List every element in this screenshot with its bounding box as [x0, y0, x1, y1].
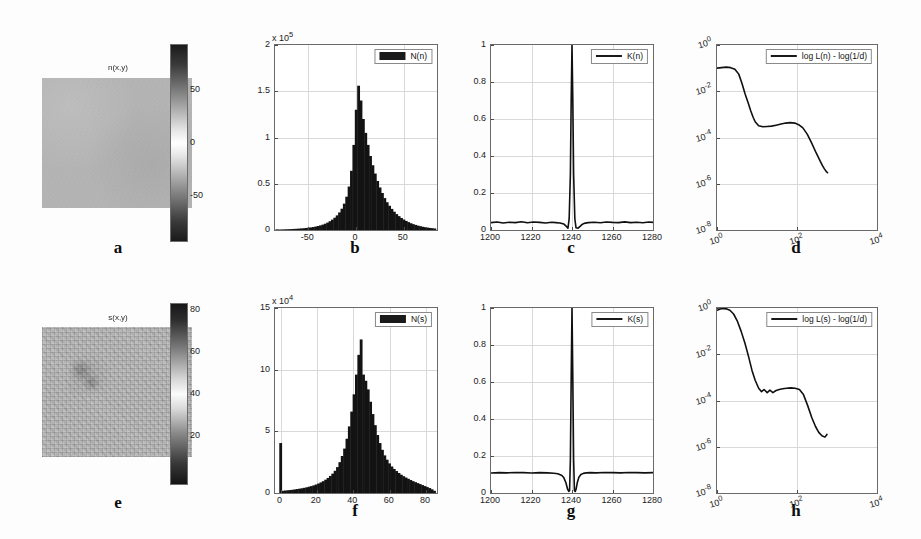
panel-d: d 10010-210-410-610-8100102104log L(n) -… [668, 30, 908, 270]
legend-label: K(s) [627, 315, 643, 324]
xtick-mark-2 [877, 227, 878, 230]
ytick-mark-3 [717, 447, 720, 448]
panel-c-ytick-2: 0.4 [458, 150, 486, 160]
series-line [717, 309, 827, 438]
ytick-exp: -4 [703, 126, 712, 136]
ytick-mark-1 [717, 354, 720, 355]
panel-f-y-exponent: x 104 [272, 293, 293, 306]
panel-b-ytick-1: 0.5 [242, 178, 270, 188]
xtick-mark-0 [491, 227, 492, 230]
panel-h-legend: log L(s) - log(1/d) [766, 312, 872, 327]
ytick-mark-0 [275, 230, 278, 231]
panel-f-plot [274, 307, 438, 494]
panel-f-xtick-2: 40 [347, 495, 357, 505]
panel-c-ytick-5: 1 [458, 39, 486, 49]
ytick-mark-2 [491, 156, 494, 157]
panel-e: s(x,y) 80 60 40 20 e [20, 295, 230, 535]
ytick-mark-5 [491, 308, 494, 309]
panel-g-xtick-3: 1260 [601, 495, 621, 505]
ytick-mark-1 [491, 193, 494, 194]
panel-c-xtick-4: 1280 [642, 232, 662, 242]
panel-d-xtick-2: 104 [867, 230, 884, 246]
panel-f-xtick-1: 20 [311, 495, 321, 505]
panel-e-colorbar-tick-3: 20 [190, 430, 200, 440]
panel-b-ytick-0: 0 [242, 224, 270, 234]
panel-g-ytick-3: 0.6 [458, 376, 486, 386]
panel-h-xtick-1: 102 [787, 493, 804, 509]
panel-a-colorbar [170, 44, 188, 242]
ytick-mark-0 [717, 45, 720, 46]
series-line [717, 67, 828, 173]
ytick-mark-3 [491, 382, 494, 383]
panel-c-ytick-4: 0.8 [458, 76, 486, 86]
panel-h-xtick-0: 100 [707, 493, 724, 509]
panel-f-xtick-3: 60 [384, 495, 394, 505]
panel-d-plot [716, 44, 878, 231]
panel-g-ytick-2: 0.4 [458, 413, 486, 423]
xtick-mark-1 [317, 490, 318, 493]
xtick-mark-4 [653, 227, 654, 230]
ytick-mark-2 [717, 401, 720, 402]
ytick-exp: -8 [703, 482, 712, 492]
panel-c-xtick-1: 1220 [520, 232, 540, 242]
panel-c-plot [490, 44, 654, 231]
legend-swatch-line [771, 55, 797, 57]
xtick-mark-3 [390, 490, 391, 493]
panel-a-colorbar-tick-1: 0 [190, 137, 195, 147]
ytick-mark-2 [275, 370, 278, 371]
ytick-mark-4 [491, 345, 494, 346]
panel-e-colorbar-tick-1: 60 [190, 346, 200, 356]
panel-b-y-exponent: x 105 [272, 30, 293, 43]
panel-h-xtick-2: 104 [867, 493, 884, 509]
figure-root: n(x,y) 50 0 -50 a x 105 b 00.511.52-5005… [0, 0, 921, 539]
xtick-mark-0 [717, 490, 718, 493]
ytick-exp: -2 [703, 343, 712, 353]
ytick-mark-1 [717, 91, 720, 92]
xtick-mark-2 [404, 227, 405, 230]
panel-g-series [491, 308, 653, 493]
legend-label: log L(s) - log(1/d) [802, 315, 867, 324]
ytick-mark-3 [491, 119, 494, 120]
xtick-mark-0 [281, 490, 282, 493]
xtick-mark-3 [613, 490, 614, 493]
ytick-mark-4 [275, 45, 278, 46]
panel-f-series [275, 308, 437, 493]
ytick-exp: -6 [703, 436, 712, 446]
legend-swatch-bar [379, 52, 405, 60]
xtick-mark-1 [797, 227, 798, 230]
panel-f-xtick-4: 80 [420, 495, 430, 505]
panel-d-ytick-2: 10-4 [683, 126, 713, 146]
panel-e-colorbar [170, 303, 188, 485]
panel-c-legend: K(n) [591, 49, 648, 64]
panel-b-legend: N(n) [374, 49, 432, 64]
panel-b-y-exponent-text: x 10 [272, 33, 289, 43]
panel-g-legend: K(s) [591, 312, 648, 327]
ytick-mark-2 [717, 138, 720, 139]
ytick-exp: -6 [703, 173, 712, 183]
series-line [491, 45, 653, 228]
panel-f-y-exponent-sup: 4 [289, 293, 293, 302]
legend-label: K(n) [627, 52, 643, 61]
xtick-mark-2 [353, 490, 354, 493]
panel-g-xtick-2: 1240 [561, 495, 581, 505]
panel-g: g 00.20.40.60.8112001220124012601280K(s) [452, 295, 662, 535]
panel-b-ytick-3: 1.5 [242, 85, 270, 95]
legend-label: N(n) [410, 52, 427, 61]
xtick-mark-0 [491, 490, 492, 493]
ytick-mark-5 [491, 45, 494, 46]
panel-letter-a: a [114, 238, 123, 258]
panel-b: x 105 b 00.511.52-50050N(n) [236, 30, 446, 270]
legend-label: log L(n) - log(1/d) [802, 52, 867, 61]
ytick-exp: -8 [703, 219, 712, 229]
panel-h-ytick-2: 10-4 [683, 389, 713, 409]
ytick-mark-3 [275, 91, 278, 92]
panel-c-ytick-1: 0.2 [458, 187, 486, 197]
xtick-mark-3 [613, 227, 614, 230]
panel-c-xtick-2: 1240 [561, 232, 581, 242]
ytick-mark-1 [491, 456, 494, 457]
panel-g-ytick-4: 0.8 [458, 339, 486, 349]
bar [433, 491, 436, 493]
ytick-mark-0 [717, 308, 720, 309]
panel-f-ytick-2: 10 [242, 364, 270, 374]
panel-h-ytick-1: 10-2 [683, 343, 713, 363]
